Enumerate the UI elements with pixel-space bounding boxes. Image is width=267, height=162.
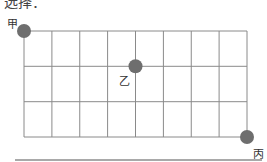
grid-diagram — [0, 0, 267, 162]
point-yi — [129, 59, 143, 73]
label-jia: 甲 — [7, 15, 18, 31]
label-bing: 丙 — [253, 145, 264, 161]
point-bing — [240, 130, 254, 144]
point-jia — [17, 24, 31, 38]
grid-lines — [24, 31, 247, 137]
label-yi: 乙 — [119, 72, 130, 88]
